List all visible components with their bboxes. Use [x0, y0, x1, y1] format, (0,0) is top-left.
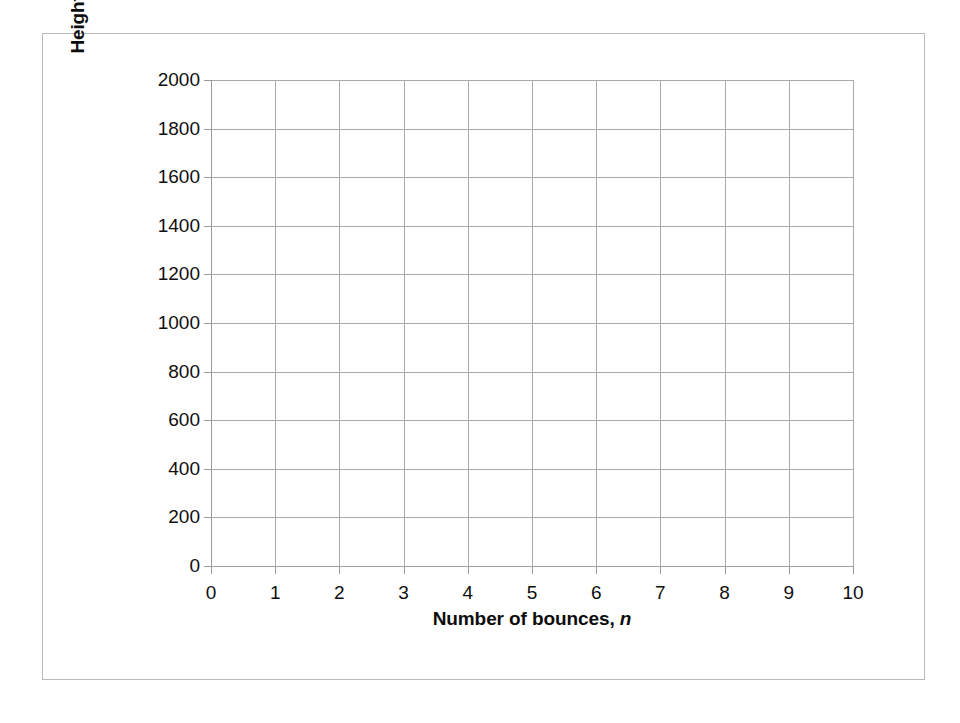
y-axis-tick-label: 800 — [130, 362, 200, 381]
x-axis-tick-labels: 012345678910 — [0, 583, 960, 609]
x-axis-tick-label: 8 — [705, 583, 745, 602]
y-axis-title-text: Height in mm of basketball, — [67, 0, 89, 54]
gridline-vertical — [853, 80, 854, 566]
x-axis-tick-mark — [468, 567, 469, 574]
x-axis-tick-label: 5 — [512, 583, 552, 602]
y-axis-tick-labels: 0200400600800100012001400160018002000 — [130, 0, 200, 723]
x-axis-tick-mark — [789, 567, 790, 574]
y-axis-tick-label: 1800 — [130, 119, 200, 138]
x-axis-tick-label: 9 — [769, 583, 809, 602]
y-axis-tick-mark — [204, 469, 211, 470]
y-axis-tick-mark — [204, 420, 211, 421]
gridline-vertical — [532, 80, 533, 566]
y-axis-tick-label: 0 — [130, 556, 200, 575]
y-axis-tick-mark — [204, 566, 211, 567]
plot-area — [211, 80, 853, 566]
x-axis-tick-label: 6 — [576, 583, 616, 602]
x-axis-tick-mark — [211, 567, 212, 574]
y-axis-tick-mark — [204, 226, 211, 227]
x-axis-tick-mark — [853, 567, 854, 574]
x-axis-tick-mark — [532, 567, 533, 574]
gridline-vertical — [275, 80, 276, 566]
x-axis-tick-mark — [339, 567, 340, 574]
y-axis-title: Height in mm of basketball, f(n) — [58, 0, 98, 160]
y-axis-tick-mark — [204, 323, 211, 324]
x-axis-tick-mark — [275, 567, 276, 574]
figure-root: Height in mm of basketball, f(n) Number … — [0, 0, 960, 723]
x-axis-title: Number of bounces, n — [211, 608, 853, 630]
y-axis-tick-mark — [204, 129, 211, 130]
y-axis-tick-label: 1200 — [130, 264, 200, 283]
y-axis-tick-label: 400 — [130, 459, 200, 478]
x-axis-tick-label: 2 — [319, 583, 359, 602]
x-axis-title-text: Number of bounces, — [433, 608, 620, 629]
x-axis-tick-mark — [660, 567, 661, 574]
y-axis-tick-label: 600 — [130, 410, 200, 429]
x-axis-tick-mark — [596, 567, 597, 574]
y-axis-tick-mark — [204, 80, 211, 81]
x-axis-tick-label: 10 — [833, 583, 873, 602]
gridline-vertical — [725, 80, 726, 566]
x-axis-tick-mark — [404, 567, 405, 574]
x-axis-tick-label: 7 — [640, 583, 680, 602]
gridline-vertical — [404, 80, 405, 566]
y-axis-tick-label: 2000 — [130, 70, 200, 89]
y-axis-tick-mark — [204, 274, 211, 275]
x-axis-tick-label: 1 — [255, 583, 295, 602]
y-axis-tick-label: 200 — [130, 507, 200, 526]
gridline-vertical — [660, 80, 661, 566]
gridline-vertical — [468, 80, 469, 566]
x-axis-tick-label: 0 — [191, 583, 231, 602]
y-axis-tick-label: 1000 — [130, 313, 200, 332]
x-axis-tick-label: 4 — [448, 583, 488, 602]
gridline-vertical — [789, 80, 790, 566]
y-axis-tick-label: 1600 — [130, 167, 200, 186]
gridline-vertical — [596, 80, 597, 566]
y-axis-tick-mark — [204, 517, 211, 518]
y-axis-line — [211, 80, 212, 567]
gridline-vertical — [339, 80, 340, 566]
x-axis-tick-mark — [725, 567, 726, 574]
y-axis-tick-mark — [204, 177, 211, 178]
x-axis-title-variable: n — [620, 608, 632, 629]
x-axis-tick-label: 3 — [384, 583, 424, 602]
y-axis-tick-label: 1400 — [130, 216, 200, 235]
y-axis-tick-mark — [204, 372, 211, 373]
